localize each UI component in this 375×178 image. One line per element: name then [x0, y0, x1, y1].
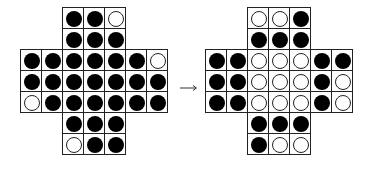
filled-peg-icon: [129, 74, 145, 90]
empty-hole-icon: [272, 53, 288, 69]
filled-peg-icon: [66, 11, 82, 27]
board-cell: [125, 70, 147, 92]
board-cell: [62, 91, 84, 113]
filled-peg-icon: [293, 32, 309, 48]
filled-peg-icon: [209, 95, 225, 111]
board-cell: [226, 91, 248, 113]
board-cell: [247, 91, 269, 113]
filled-peg-icon: [66, 116, 82, 132]
filled-peg-icon: [314, 74, 330, 90]
board-cell: [104, 70, 126, 92]
board-cell: [310, 70, 332, 92]
filled-peg-icon: [314, 95, 330, 111]
empty-hole-icon: [251, 74, 267, 90]
empty-hole-icon: [251, 53, 267, 69]
board-cell: [247, 70, 269, 92]
board-cell: [20, 70, 42, 92]
empty-hole-icon: [272, 11, 288, 27]
board-cell: [268, 112, 290, 134]
filled-peg-icon: [108, 137, 124, 153]
board-cell: [310, 49, 332, 71]
board-cell: [62, 112, 84, 134]
board-cell: [83, 7, 105, 29]
empty-hole-icon: [293, 53, 309, 69]
empty-hole-icon: [150, 53, 166, 69]
board-cell: [104, 28, 126, 50]
board-cell: [83, 49, 105, 71]
board-cell: [104, 49, 126, 71]
board-cell: [331, 91, 353, 113]
board-cell: [205, 49, 227, 71]
board-cell: [146, 49, 168, 71]
filled-peg-icon: [129, 53, 145, 69]
board-cell: [268, 133, 290, 155]
empty-hole-icon: [293, 95, 309, 111]
empty-hole-icon: [24, 95, 40, 111]
board-cell: [41, 70, 63, 92]
filled-peg-icon: [45, 53, 61, 69]
filled-peg-icon: [66, 32, 82, 48]
filled-peg-icon: [45, 74, 61, 90]
board-cell: [62, 28, 84, 50]
filled-peg-icon: [87, 53, 103, 69]
board-cell: [247, 49, 269, 71]
board-cell: [226, 49, 248, 71]
board-cell: [268, 91, 290, 113]
filled-peg-icon: [314, 53, 330, 69]
board-cell: [205, 91, 227, 113]
empty-hole-icon: [272, 137, 288, 153]
filled-peg-icon: [87, 116, 103, 132]
board-cell: [20, 91, 42, 113]
board-cell: [289, 133, 311, 155]
board-cell: [289, 70, 311, 92]
filled-peg-icon: [87, 32, 103, 48]
filled-peg-icon: [230, 53, 246, 69]
filled-peg-icon: [209, 74, 225, 90]
filled-peg-icon: [150, 74, 166, 90]
board-cell: [310, 91, 332, 113]
board-cell: [104, 112, 126, 134]
board-cell: [146, 91, 168, 113]
board-cell: [268, 49, 290, 71]
filled-peg-icon: [45, 95, 61, 111]
filled-peg-icon: [230, 74, 246, 90]
empty-hole-icon: [293, 74, 309, 90]
board-cell: [331, 49, 353, 71]
board-cell: [289, 91, 311, 113]
board-cell: [62, 70, 84, 92]
right-arrow-icon: [180, 84, 198, 92]
filled-peg-icon: [108, 95, 124, 111]
filled-peg-icon: [209, 53, 225, 69]
filled-peg-icon: [87, 137, 103, 153]
board-cell: [268, 28, 290, 50]
filled-peg-icon: [24, 74, 40, 90]
filled-peg-icon: [24, 53, 40, 69]
board-cell: [83, 70, 105, 92]
empty-hole-icon: [108, 11, 124, 27]
filled-peg-icon: [108, 32, 124, 48]
filled-peg-icon: [87, 95, 103, 111]
board-cell: [125, 49, 147, 71]
board-cell: [247, 7, 269, 29]
filled-peg-icon: [108, 116, 124, 132]
board-cell: [62, 7, 84, 29]
filled-peg-icon: [87, 74, 103, 90]
empty-hole-icon: [293, 137, 309, 153]
filled-peg-icon: [87, 11, 103, 27]
board-cell: [268, 7, 290, 29]
filled-peg-icon: [129, 95, 145, 111]
filled-peg-icon: [272, 32, 288, 48]
board-cell: [331, 70, 353, 92]
board-cell: [62, 49, 84, 71]
board-cell: [83, 133, 105, 155]
empty-hole-icon: [335, 74, 351, 90]
board-cell: [289, 7, 311, 29]
board-cell: [83, 91, 105, 113]
board-cell: [41, 91, 63, 113]
board-cell: [104, 133, 126, 155]
filled-peg-icon: [230, 95, 246, 111]
empty-hole-icon: [272, 95, 288, 111]
board-cell: [289, 112, 311, 134]
board-cell: [247, 133, 269, 155]
empty-hole-icon: [66, 137, 82, 153]
